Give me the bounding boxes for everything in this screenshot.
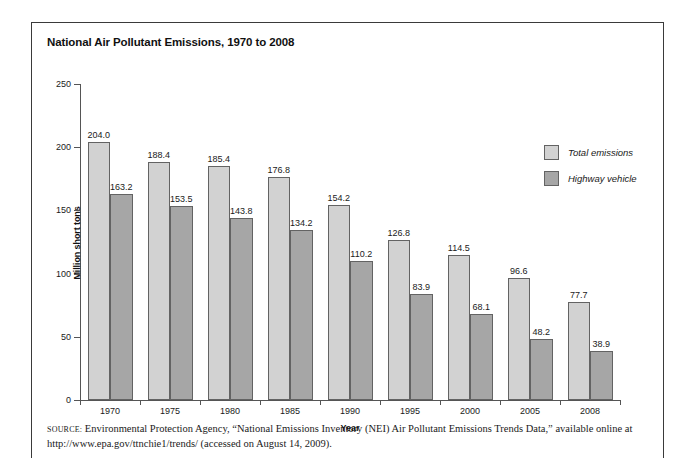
legend-item[interactable]: Highway vehicle [544,171,637,186]
bar-value-label: 48.2 [532,327,550,337]
bar-group: 185.4143.81980 [208,84,253,400]
source-text: Environmental Protection Agency, “Nation… [47,423,632,449]
bar[interactable]: 114.5 [448,255,471,400]
x-axis-tick-mark [80,400,81,405]
bar[interactable]: 204.0 [88,142,111,400]
x-axis-tick-label: 1975 [160,406,180,416]
source-note: SOURCE: Environmental Protection Agency,… [47,422,647,450]
chart-title: National Air Pollutant Emissions, 1970 t… [47,36,294,48]
bar[interactable]: 163.2 [110,194,133,400]
x-axis-tick-mark [380,400,381,405]
bar-group: 176.8134.21985 [268,84,313,400]
x-axis-tick-mark [560,400,561,405]
bar-group: 126.883.91995 [388,84,433,400]
bar[interactable]: 110.2 [350,261,373,400]
x-axis-tick-label: 1990 [340,406,360,416]
bar-value-label: 143.8 [230,206,253,216]
legend-item[interactable]: Total emissions [544,145,637,160]
y-axis-tick-label: 0 [66,395,71,405]
bar-value-label: 185.4 [207,154,230,164]
bar[interactable]: 38.9 [590,351,613,400]
bar[interactable]: 154.2 [328,205,351,400]
bar-value-label: 68.1 [472,302,490,312]
bar-group: 154.2110.21990 [328,84,373,400]
bar-value-label: 126.8 [387,228,410,238]
bar[interactable]: 126.8 [388,240,411,400]
bar-value-label: 114.5 [448,243,470,253]
x-axis-tick-mark [320,400,321,405]
bar-value-label: 77.7 [570,290,588,300]
y-axis-tick-label: 150 [56,205,71,215]
bar[interactable]: 48.2 [530,339,553,400]
y-axis-tick-mark [74,274,80,275]
x-axis-tick-mark [260,400,261,405]
bar[interactable]: 134.2 [290,230,313,400]
figure-frame: National Air Pollutant Emissions, 1970 t… [31,22,664,458]
x-axis-line [80,400,620,401]
x-axis-tick-label: 1985 [280,406,300,416]
x-axis-tick-mark [440,400,441,405]
x-axis-tick-mark [500,400,501,405]
bar[interactable]: 143.8 [230,218,253,400]
y-axis-tick-label: 50 [61,332,71,342]
x-axis-tick-label: 1970 [100,406,120,416]
bar-group: 77.738.92008 [568,84,613,400]
bar-group: 204.0163.21970 [88,84,133,400]
plot-area: Million short tons 050100150200250 204.0… [80,84,620,401]
x-axis-tick-mark [620,400,621,405]
legend-swatch [544,171,559,186]
y-axis-tick-mark [74,210,80,211]
bar[interactable]: 77.7 [568,302,591,400]
bar[interactable]: 176.8 [268,177,291,400]
bar[interactable]: 68.1 [470,314,493,400]
x-axis-tick-mark [140,400,141,405]
bar-value-label: 83.9 [412,282,430,292]
y-axis-tick-mark [74,337,80,338]
y-axis-tick-label: 100 [56,269,71,279]
source-label: SOURCE: [47,425,82,434]
bar-value-label: 96.6 [510,266,528,276]
bar-group: 114.568.12000 [448,84,493,400]
bar[interactable]: 185.4 [208,166,231,400]
x-axis-tick-label: 1980 [220,406,240,416]
bar-value-label: 153.5 [170,194,193,204]
bar-value-label: 110.2 [350,249,372,259]
bar-value-label: 38.9 [592,339,610,349]
y-axis-tick-mark [74,84,80,85]
bar-value-label: 134.2 [290,218,313,228]
bar[interactable]: 96.6 [508,278,531,400]
bar[interactable]: 153.5 [170,206,193,400]
legend-swatch [544,145,559,160]
x-axis-tick-label: 2008 [580,406,600,416]
legend-label: Highway vehicle [568,173,637,184]
bar-value-label: 204.0 [87,130,110,140]
x-axis-tick-label: 2005 [520,406,540,416]
y-axis-tick-label: 200 [56,142,71,152]
x-axis-tick-label: 1995 [400,406,420,416]
chart-legend: Total emissionsHighway vehicle [544,145,637,197]
bar-value-label: 176.8 [267,165,290,175]
y-axis-tick-mark [74,147,80,148]
bar-group: 188.4153.51975 [148,84,193,400]
x-axis-tick-mark [200,400,201,405]
y-axis-title: Million short tons [72,206,82,279]
bar[interactable]: 188.4 [148,162,171,400]
bar-value-label: 163.2 [110,182,133,192]
bar-group: 96.648.22005 [508,84,553,400]
legend-label: Total emissions [568,147,633,158]
bar-value-label: 188.4 [147,150,170,160]
y-axis-tick-label: 250 [56,79,71,89]
x-axis-tick-label: 2000 [460,406,480,416]
bar-value-label: 154.2 [327,193,350,203]
bar[interactable]: 83.9 [410,294,433,400]
